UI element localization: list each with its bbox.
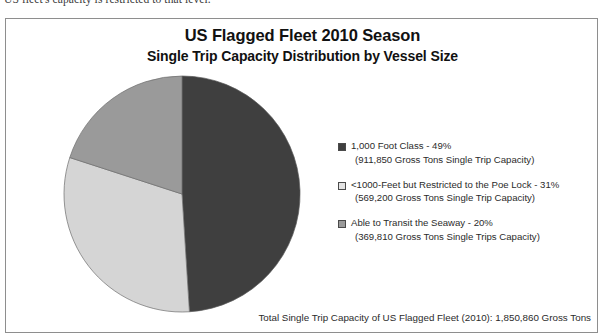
legend-swatch-icon	[338, 182, 346, 190]
chart-title-block: US Flagged Fleet 2010 Season Single Trip…	[6, 25, 599, 66]
legend-swatch-icon	[338, 220, 346, 228]
legend-item-label: 1,000 Foot Class - 49%	[351, 140, 598, 153]
pie-chart-svg	[62, 74, 302, 314]
chart-legend: 1,000 Foot Class - 49% (911,850 Gross To…	[336, 140, 598, 256]
page-body-text-cutoff: US fleet's capacity is restricted to tha…	[4, 0, 334, 7]
legend-item[interactable]: <1000-Feet but Restricted to the Poe Loc…	[336, 179, 598, 205]
legend-item-detail: (569,200 Gross Tons Single Trip Capacity…	[351, 191, 598, 204]
legend-swatch-icon	[338, 143, 346, 151]
legend-item-label: <1000-Feet but Restricted to the Poe Loc…	[351, 179, 598, 192]
pie-slice-1000-foot-class	[182, 76, 300, 312]
legend-item[interactable]: Able to Transit the Seaway - 20% (369,81…	[336, 217, 598, 243]
figure-frame: US Flagged Fleet 2010 Season Single Trip…	[5, 18, 598, 333]
legend-item-detail: (911,850 Gross Tons Single Trip Capacity…	[351, 153, 598, 166]
legend-item-detail: (369,810 Gross Tons Single Trips Capacit…	[351, 230, 598, 243]
pie-chart	[62, 74, 302, 314]
legend-item[interactable]: 1,000 Foot Class - 49% (911,850 Gross To…	[336, 140, 598, 166]
chart-title: US Flagged Fleet 2010 Season	[6, 25, 599, 45]
chart-footer-total: Total Single Trip Capacity of US Flagged…	[6, 312, 591, 323]
legend-item-label: Able to Transit the Seaway - 20%	[351, 217, 598, 230]
chart-subtitle: Single Trip Capacity Distribution by Ves…	[6, 47, 599, 66]
